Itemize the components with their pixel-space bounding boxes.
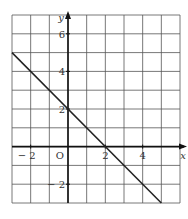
x-tick-label: 2 xyxy=(102,150,108,161)
line-graph: − 224− 2246Oxy xyxy=(0,0,188,219)
y-tick-label: 6 xyxy=(59,29,65,40)
y-tick-label: − 2 xyxy=(47,179,65,190)
x-axis-label: x xyxy=(180,150,186,161)
origin-label: O xyxy=(56,150,64,161)
y-tick-label: 4 xyxy=(59,66,65,77)
x-tick-label: − 2 xyxy=(18,150,36,161)
x-tick-label: 4 xyxy=(139,150,145,161)
y-axis-label: y xyxy=(57,12,64,23)
